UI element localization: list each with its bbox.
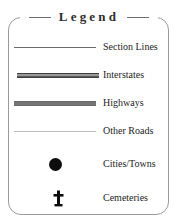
legend-label-interstates: Interstates	[103, 69, 144, 81]
title-rule-left	[29, 17, 51, 18]
legend-label-highways: Highways	[103, 97, 144, 109]
cities-towns-label-col: Cities/Towns	[103, 149, 169, 179]
other-road-line-icon	[14, 131, 96, 132]
interstate-line-swatch	[8, 60, 96, 90]
map-legend: Legend Section Lines Interstates	[0, 0, 178, 224]
highway-line-icon	[14, 101, 96, 106]
other-roads-label-col: Other Roads	[103, 116, 169, 146]
section-line-icon	[14, 47, 96, 48]
legend-row-cemeteries: Cemeteries	[8, 183, 169, 213]
legend-title: Legend	[57, 10, 121, 24]
interstates-label-col: Interstates	[103, 60, 169, 90]
legend-row-other-roads: Other Roads	[8, 116, 169, 146]
section-lines-label-col: Section Lines	[103, 32, 169, 62]
title-rule-right	[127, 17, 149, 18]
legend-title-group: Legend	[14, 8, 164, 26]
legend-row-highways: Highways	[8, 88, 169, 118]
highway-line-swatch	[8, 88, 96, 118]
legend-label-cemeteries: Cemeteries	[103, 192, 148, 204]
section-line-swatch	[8, 32, 96, 62]
cemeteries-label-col: Cemeteries	[103, 183, 169, 213]
legend-label-cities-towns: Cities/Towns	[103, 158, 156, 170]
legend-entries: Section Lines Interstates Highways	[8, 17, 169, 215]
other-road-line-swatch	[8, 116, 96, 146]
legend-row-section-lines: Section Lines	[8, 32, 169, 62]
highways-label-col: Highways	[103, 88, 169, 118]
cemetery-cross-icon	[52, 190, 65, 207]
interstate-line-icon	[17, 73, 99, 78]
legend-row-interstates: Interstates	[8, 60, 169, 90]
cemetery-cross-swatch	[8, 183, 96, 213]
legend-label-other-roads: Other Roads	[103, 125, 153, 137]
city-dot-icon	[49, 158, 62, 171]
legend-label-section-lines: Section Lines	[103, 41, 158, 53]
city-dot-swatch	[8, 149, 96, 179]
legend-row-cities-towns: Cities/Towns	[8, 149, 169, 179]
